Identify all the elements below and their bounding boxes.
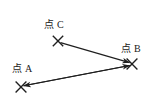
segment-c-b-line bbox=[61, 43, 130, 63]
segment-a-to-b bbox=[24, 66, 130, 86]
point-marker-a bbox=[16, 82, 27, 93]
point-label-c: 点 C bbox=[44, 19, 64, 30]
segment-c-to-b bbox=[61, 43, 130, 63]
point-marker-c bbox=[53, 36, 63, 46]
point-label-b: 点 B bbox=[121, 43, 141, 54]
segment-b-a-line bbox=[24, 66, 130, 86]
point-label-a: 点 A bbox=[12, 63, 32, 74]
point-marker-b bbox=[127, 59, 138, 70]
diagram-canvas: 点 A 点 B 点 C bbox=[0, 0, 157, 104]
